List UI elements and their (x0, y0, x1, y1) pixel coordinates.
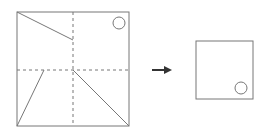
folded-paper (196, 41, 253, 99)
right-arrow-icon (152, 66, 172, 74)
hole-circle-icon (235, 82, 247, 94)
hole-circle-icon (113, 17, 125, 29)
diagram-canvas (0, 0, 268, 134)
unfolded-paper (17, 12, 129, 126)
cut-line-bottom-right (73, 70, 129, 126)
cut-line-bottom-left (17, 70, 44, 126)
folded-square (196, 41, 253, 99)
cut-line-top-left (17, 12, 73, 40)
